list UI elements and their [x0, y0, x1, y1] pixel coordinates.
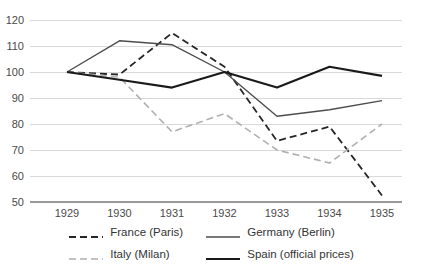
legend-swatch-line-icon	[205, 250, 241, 260]
legend-swatch-line-icon	[68, 250, 104, 260]
legend-label: France (Paris)	[110, 227, 183, 239]
y-axis-tick-label: 60	[12, 170, 24, 182]
x-axis-tick-labels: 1929193019311932193319341935	[55, 207, 394, 219]
legend-label: Spain (official prices)	[247, 249, 354, 261]
y-axis-tick-label: 120	[6, 14, 24, 26]
y-axis-tick-labels: 5060708090100110120	[6, 14, 24, 208]
x-axis-tick-label: 1934	[317, 207, 341, 219]
y-axis-tick-label: 80	[12, 118, 24, 130]
legend-entry[interactable]: Spain (official prices)	[205, 249, 354, 261]
chart-plot-area: 5060708090100110120 19291930193119321933…	[0, 0, 422, 222]
y-axis-tick-label: 110	[6, 40, 24, 52]
gridlines	[30, 20, 402, 202]
line-chart: 5060708090100110120 19291930193119321933…	[0, 0, 422, 268]
legend-swatch-line-icon	[68, 228, 104, 238]
legend-grid: France (Paris)Germany (Berlin)Italy (Mil…	[0, 222, 422, 266]
y-axis-tick-label: 90	[12, 92, 24, 104]
legend-entry[interactable]: Germany (Berlin)	[205, 227, 354, 239]
x-axis-tick-label: 1930	[107, 207, 131, 219]
x-axis-tick-label: 1929	[55, 207, 79, 219]
series-line-2	[67, 72, 382, 163]
x-axis-tick-label: 1932	[212, 207, 236, 219]
y-axis-tick-label: 70	[12, 144, 24, 156]
legend-label: Germany (Berlin)	[247, 227, 335, 239]
y-axis-tick-label: 50	[12, 196, 24, 208]
chart-legend: France (Paris)Germany (Berlin)Italy (Mil…	[0, 222, 422, 268]
legend-entry[interactable]: Italy (Milan)	[68, 249, 193, 261]
legend-entry[interactable]: France (Paris)	[68, 227, 193, 239]
x-axis-tick-label: 1933	[265, 207, 289, 219]
x-axis-tick-label: 1931	[160, 207, 184, 219]
series-line-0	[67, 33, 382, 196]
x-axis-tick-label: 1935	[370, 207, 394, 219]
legend-swatch-line-icon	[205, 228, 241, 238]
data-series-group	[67, 33, 382, 196]
legend-label: Italy (Milan)	[110, 249, 169, 261]
y-axis-tick-label: 100	[6, 66, 24, 78]
